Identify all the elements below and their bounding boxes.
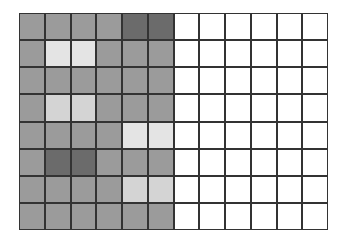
grid-cell: [46, 177, 70, 202]
grid-cell: [72, 14, 96, 39]
grid-cell: [303, 68, 327, 93]
grid-cell: [303, 14, 327, 39]
grid-cell: [252, 14, 276, 39]
grid-cell: [278, 204, 302, 229]
grid-cell: [200, 123, 224, 148]
grid-cell: [226, 95, 250, 120]
grid-cell: [20, 95, 44, 120]
grid-cell: [303, 204, 327, 229]
grid-cell: [226, 204, 250, 229]
grid-cell: [123, 123, 147, 148]
grid-cell: [252, 177, 276, 202]
grid-cell: [97, 68, 121, 93]
grid-cell: [278, 123, 302, 148]
grid-cell: [123, 41, 147, 66]
grid-cell: [278, 95, 302, 120]
grid-cell: [20, 41, 44, 66]
grid-cell: [46, 41, 70, 66]
grid-cell: [123, 68, 147, 93]
grid-cell: [226, 14, 250, 39]
grid-cell: [200, 68, 224, 93]
grid-cell: [123, 150, 147, 175]
grid-cell: [278, 14, 302, 39]
grid-cell: [149, 68, 173, 93]
grid-cell: [20, 68, 44, 93]
grid-cell: [72, 204, 96, 229]
grid-cell: [20, 177, 44, 202]
grid-cell: [303, 150, 327, 175]
grid-cell: [72, 95, 96, 120]
grid-cell: [46, 68, 70, 93]
grid-cell: [72, 68, 96, 93]
grid-cell: [175, 41, 199, 66]
grid-cell: [72, 150, 96, 175]
grid-cell: [97, 41, 121, 66]
grid-cell: [252, 204, 276, 229]
grid-cell: [123, 177, 147, 202]
grid-cell: [149, 41, 173, 66]
grid-cell: [252, 68, 276, 93]
grid-cell: [46, 95, 70, 120]
grid-cell: [149, 177, 173, 202]
grid-cell: [46, 14, 70, 39]
grid-cell: [175, 123, 199, 148]
grid-cell: [200, 150, 224, 175]
grid-cell: [278, 177, 302, 202]
grid-cell: [175, 150, 199, 175]
grid-cell: [226, 68, 250, 93]
grid-cell: [97, 177, 121, 202]
grid-cell: [278, 68, 302, 93]
grid-cell: [46, 150, 70, 175]
grid-cell: [123, 95, 147, 120]
grid-cell: [97, 14, 121, 39]
grid-cell: [252, 41, 276, 66]
grid-cell: [123, 14, 147, 39]
grid-cell: [226, 123, 250, 148]
grid-cell: [303, 123, 327, 148]
shaded-grid: [19, 13, 328, 230]
grid-cell: [20, 123, 44, 148]
grid-cell: [97, 150, 121, 175]
grid-cell: [149, 150, 173, 175]
grid-cell: [175, 95, 199, 120]
grid-cell: [149, 204, 173, 229]
grid-cell: [303, 177, 327, 202]
grid-cell: [46, 123, 70, 148]
grid-cell: [252, 95, 276, 120]
grid-cell: [20, 150, 44, 175]
grid-cell: [149, 14, 173, 39]
grid-cell: [20, 14, 44, 39]
grid-cell: [97, 95, 121, 120]
grid-cell: [200, 41, 224, 66]
grid-cell: [252, 123, 276, 148]
grid-cell: [278, 150, 302, 175]
grid-cell: [72, 41, 96, 66]
grid-cell: [200, 177, 224, 202]
grid-cell: [200, 204, 224, 229]
grid-cell: [97, 204, 121, 229]
grid-cell: [97, 123, 121, 148]
grid-cell: [149, 95, 173, 120]
grid-cell: [226, 150, 250, 175]
grid-cell: [46, 204, 70, 229]
grid-cell: [175, 204, 199, 229]
grid-cell: [200, 95, 224, 120]
grid-cell: [72, 123, 96, 148]
grid-cell: [226, 177, 250, 202]
grid-cell: [278, 41, 302, 66]
grid-cell: [123, 204, 147, 229]
grid-cell: [72, 177, 96, 202]
grid-cell: [200, 14, 224, 39]
grid-cell: [303, 41, 327, 66]
grid-cell: [175, 14, 199, 39]
grid-cell: [252, 150, 276, 175]
grid-cell: [226, 41, 250, 66]
grid-cell: [20, 204, 44, 229]
grid-cell: [175, 177, 199, 202]
grid-cell: [149, 123, 173, 148]
grid-cell: [175, 68, 199, 93]
grid-cell: [303, 95, 327, 120]
